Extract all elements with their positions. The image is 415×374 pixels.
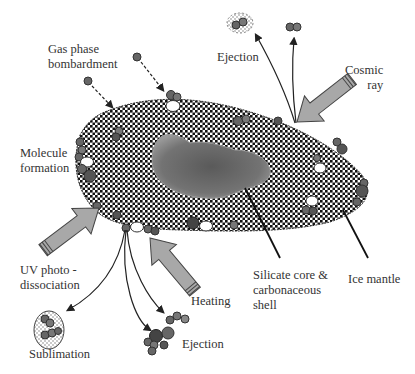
sublimation-cluster xyxy=(34,311,64,349)
label-ejection-bottom: Ejection xyxy=(182,337,224,352)
label-uv: UV photo - dissociation xyxy=(20,263,80,293)
label-cosmic-ray: Cosmic ray xyxy=(345,63,383,93)
label-heating: Heating xyxy=(191,294,231,309)
ejection-top xyxy=(227,13,301,123)
heating-arrow xyxy=(138,228,208,302)
label-ice-mantle: Ice mantle xyxy=(348,272,400,287)
label-gas-phase: Gas phase bombardment xyxy=(48,42,117,72)
ice-mantle-pointer-line xyxy=(343,210,368,258)
bottom-ejection-paths xyxy=(68,230,163,330)
label-sublimation: Sublimation xyxy=(29,347,90,362)
label-ejection-top: Ejection xyxy=(217,50,259,65)
label-molecule-formation: Molecule formation xyxy=(20,146,69,176)
label-core: Silicate core & carbonaceous shell xyxy=(253,268,328,313)
